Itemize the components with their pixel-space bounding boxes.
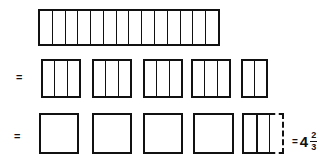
result-equals-sign: = bbox=[292, 137, 297, 147]
row-2-group-5 bbox=[241, 59, 268, 98]
third-segment bbox=[193, 61, 205, 96]
fraction-diagram: = = = 4 2 3 bbox=[0, 0, 333, 167]
third-segment bbox=[94, 61, 106, 96]
third-segment bbox=[181, 11, 194, 44]
third-segment bbox=[168, 11, 181, 44]
third-segment bbox=[218, 61, 229, 96]
result-fraction: 2 3 bbox=[310, 131, 317, 152]
third-segment bbox=[155, 11, 168, 44]
third-segment bbox=[145, 61, 157, 96]
third-segment bbox=[104, 11, 117, 44]
third-segment bbox=[53, 11, 66, 44]
third-segment bbox=[91, 11, 104, 44]
row-3-whole-2 bbox=[92, 113, 132, 154]
filled-third bbox=[256, 113, 271, 154]
equals-sign-row-2: = bbox=[16, 72, 21, 83]
third-segment bbox=[40, 11, 53, 44]
row-2-group-4 bbox=[191, 59, 231, 98]
row-3-whole-3 bbox=[143, 113, 183, 154]
third-segment bbox=[119, 61, 130, 96]
row-3-whole-4 bbox=[193, 113, 234, 154]
row-2-group-2 bbox=[92, 59, 132, 98]
row-2-group-1 bbox=[41, 59, 81, 98]
third-segment bbox=[206, 11, 218, 44]
third-segment bbox=[255, 61, 266, 96]
third-segment bbox=[243, 61, 255, 96]
row-1-strip bbox=[38, 9, 220, 46]
third-segment bbox=[129, 11, 142, 44]
third-segment bbox=[193, 11, 206, 44]
third-segment bbox=[66, 11, 79, 44]
row-2-group-3 bbox=[143, 59, 183, 98]
equals-sign-row-3: = bbox=[14, 131, 19, 142]
fraction-numerator: 2 bbox=[310, 131, 317, 141]
third-segment bbox=[117, 11, 130, 44]
third-segment bbox=[157, 61, 169, 96]
filled-third bbox=[242, 113, 256, 154]
third-segment bbox=[55, 61, 67, 96]
third-segment bbox=[142, 11, 155, 44]
result-whole-number: 4 bbox=[300, 134, 308, 149]
fraction-denominator: 3 bbox=[310, 141, 317, 152]
third-segment bbox=[43, 61, 55, 96]
row-3-whole-1 bbox=[39, 113, 79, 154]
third-segment bbox=[205, 61, 217, 96]
result-expression: = 4 2 3 bbox=[292, 131, 317, 152]
third-segment bbox=[68, 61, 79, 96]
third-segment bbox=[170, 61, 181, 96]
empty-third-dashed bbox=[270, 113, 284, 154]
third-segment bbox=[78, 11, 91, 44]
row-3-partial-two-thirds bbox=[242, 113, 284, 154]
third-segment bbox=[106, 61, 118, 96]
